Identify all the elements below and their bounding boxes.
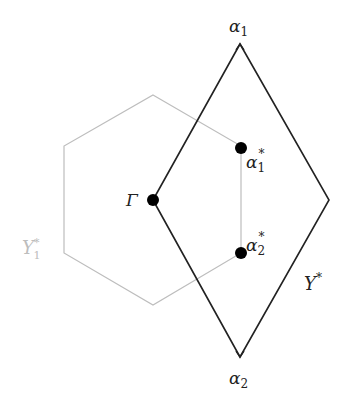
- brillouin-zone-diagram: α1 α2 α*1 α*2 Γ Y* Y*1: [0, 0, 348, 407]
- label-gamma: Γ: [125, 190, 139, 210]
- arrowhead-alpha1-icon: [236, 44, 244, 50]
- label-alpha2: α2: [229, 368, 248, 391]
- label-alpha1: α1: [229, 16, 248, 39]
- label-y1-star: Y*1: [22, 236, 40, 262]
- label-y-star: Y*: [304, 271, 322, 294]
- label-alpha2-star: α*2: [246, 230, 265, 258]
- label-alpha1-star: α*1: [246, 147, 265, 175]
- arrowhead-alpha2-icon: [236, 351, 244, 357]
- gamma-point: [147, 194, 159, 206]
